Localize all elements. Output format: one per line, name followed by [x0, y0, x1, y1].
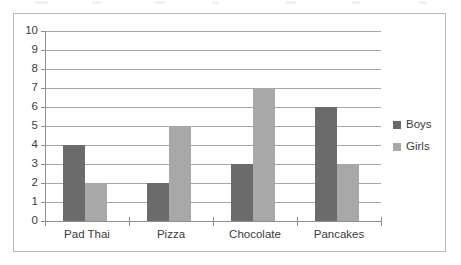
x-axis-tick-mark: [213, 217, 214, 226]
x-axis-label-pancakes: Pancakes: [314, 229, 365, 241]
bar-girls-pad-thai[interactable]: [85, 183, 107, 221]
y-axis-tick-label: 8: [32, 63, 38, 75]
legend-swatch-icon: [393, 143, 401, 151]
legend-label: Girls: [406, 141, 430, 153]
bar-boys-pizza[interactable]: [147, 183, 169, 221]
legend-item-girls[interactable]: Girls: [393, 136, 449, 158]
y-axis-tick-label: 2: [32, 177, 38, 189]
chart-legend: BoysGirls: [393, 114, 449, 158]
bar-boys-chocolate[interactable]: [231, 164, 253, 221]
x-axis-label-pad-thai: Pad Thai: [64, 229, 110, 241]
y-axis-tick-label: 4: [32, 139, 38, 151]
bar-boys-pancakes[interactable]: [315, 107, 337, 221]
y-axis-tick-label: 7: [32, 82, 38, 94]
x-axis-tick-mark: [45, 217, 46, 226]
x-axis-tick-mark: [129, 217, 130, 226]
bar-girls-chocolate[interactable]: [253, 88, 275, 221]
legend-label: Boys: [406, 119, 432, 131]
chart-container: 109876543210 Pad ThaiPizzaChocolatePanca…: [13, 13, 446, 252]
legend-swatch-icon: [393, 121, 401, 129]
y-axis-tick-label: 3: [32, 158, 38, 170]
y-axis-tick-label: 9: [32, 44, 38, 56]
bar-group: [214, 31, 298, 221]
x-axis-tick-mark: [381, 217, 382, 226]
bars-layer: [46, 31, 381, 221]
bar-girls-pancakes[interactable]: [337, 164, 359, 221]
legend-item-boys[interactable]: Boys: [393, 114, 449, 136]
bar-group: [46, 31, 130, 221]
x-axis-label-chocolate: Chocolate: [229, 229, 281, 241]
y-axis-tick-label: 6: [32, 101, 38, 113]
bar-boys-pad-thai[interactable]: [63, 145, 85, 221]
y-axis-tick-label: 5: [32, 120, 38, 132]
scan-artifact-band: [0, 0, 461, 7]
x-axis-label-pizza: Pizza: [157, 229, 185, 241]
bar-group: [298, 31, 382, 221]
y-axis-tick-label: 0: [32, 215, 38, 227]
y-axis-tick-label: 10: [25, 25, 38, 37]
x-axis-tick-mark: [297, 217, 298, 226]
y-axis-tick-label: 1: [32, 196, 38, 208]
plot-area: 109876543210 Pad ThaiPizzaChocolatePanca…: [45, 31, 381, 221]
bar-group: [130, 31, 214, 221]
bar-girls-pizza[interactable]: [169, 126, 191, 221]
